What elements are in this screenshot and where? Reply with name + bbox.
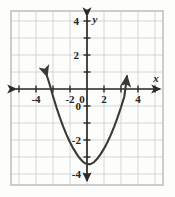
graph-canvas: -4 -2 0 2 4 4 2 0 -2 -4 x y xyxy=(0,0,175,197)
y-tick-label-4: 4 xyxy=(74,15,80,27)
y-tick-label-2: 2 xyxy=(74,49,80,61)
x-tick-label-2: 2 xyxy=(101,93,107,105)
x-tick-label-neg2: -2 xyxy=(65,93,75,105)
x-tick-label-4: 4 xyxy=(135,93,141,105)
x-axis-label: x xyxy=(152,72,159,84)
y-axis-label: y xyxy=(91,13,98,25)
x-tick-label-neg4: -4 xyxy=(31,93,41,105)
y-tick-label-neg4: -2 xyxy=(72,134,82,146)
coordinate-plane-figure: -4 -2 0 2 4 4 2 0 -2 -4 x y xyxy=(0,0,175,197)
y-tick-label-neg6: -4 xyxy=(72,168,82,180)
y-tick-label-neg2: 0 xyxy=(76,100,82,112)
